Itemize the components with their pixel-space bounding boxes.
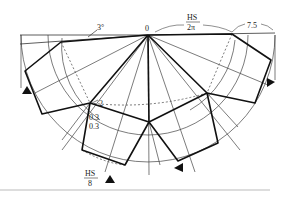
arrow-right-icon xyxy=(267,78,275,87)
arrow-left-icon xyxy=(22,86,32,94)
hs-denominator: 2π xyxy=(187,23,195,32)
hs-bottom-denominator: 8 xyxy=(88,179,92,188)
offset-label-b: 0.3 xyxy=(89,122,99,131)
diagram-canvas: 0 3° HS 2π 7.5 2 0.3 0.3 HS 8 xyxy=(0,0,290,197)
apex-label: 0 xyxy=(145,24,149,33)
arrow-bottom-left-icon xyxy=(105,175,115,183)
hs-bottom-numerator: HS xyxy=(85,169,95,178)
node-label: 2 xyxy=(99,99,103,108)
hs-numerator: HS xyxy=(187,13,197,22)
arrow-bottom-right-icon xyxy=(174,163,183,172)
radial-lines xyxy=(35,35,268,175)
folding-diagram: 0 3° HS 2π 7.5 2 0.3 0.3 HS 8 xyxy=(0,0,290,197)
dashed-fold-lines xyxy=(61,34,232,165)
offset-label-a: 0.3 xyxy=(89,113,99,122)
length-label: 7.5 xyxy=(247,21,257,30)
angle-label: 3° xyxy=(97,23,104,32)
